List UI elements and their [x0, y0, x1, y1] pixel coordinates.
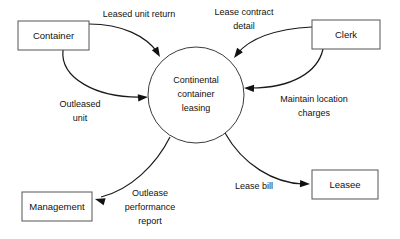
process-label-line-3: leasing: [182, 103, 211, 113]
flow-lease-bill-arrowhead: [300, 180, 310, 188]
container-entity-label: Container: [33, 30, 74, 41]
flow-lease-contract-detail-label-line-2: detail: [233, 21, 255, 31]
flow-outlease-performance-report-label: Outlease performance report: [125, 188, 176, 226]
flow-outlease-performance-report-label-line-2: performance: [125, 202, 176, 212]
clerk-entity-label: Clerk: [335, 29, 357, 40]
flow-lease-bill-path: [225, 133, 303, 184]
flow-lease-bill[interactable]: [225, 133, 310, 188]
flow-outlease-performance-report-label-line-1: Outlease: [132, 188, 168, 198]
flow-outleased-unit-label-line-1: Outleased: [59, 99, 100, 109]
flow-maintain-location-charges-path: [251, 49, 323, 88]
management-entity-label: Management: [29, 201, 85, 212]
flow-maintain-location-charges-arrowhead: [244, 84, 254, 92]
process-label-line-1: Continental: [173, 75, 219, 85]
flow-outleased-unit-label-line-2: unit: [73, 113, 88, 123]
flow-leased-unit-return-label: Leased unit return: [103, 9, 176, 19]
clerk-entity[interactable]: Clerk: [312, 20, 380, 49]
flow-outleased-unit-label: Outleased unit: [59, 99, 100, 123]
flow-outlease-performance-report-label-line-3: report: [138, 216, 162, 226]
flow-maintain-location-charges-label-line-1: Maintain location: [280, 94, 348, 104]
flow-maintain-location-charges[interactable]: [244, 49, 323, 92]
flow-leased-unit-return-label-line-1: Leased unit return: [103, 9, 176, 19]
flow-lease-bill-label-line-1: Lease bill: [235, 181, 273, 191]
flow-outleased-unit-path: [63, 50, 142, 97]
management-entity[interactable]: Management: [22, 192, 92, 221]
flow-lease-contract-detail-path: [237, 27, 312, 54]
continental-container-leasing-process[interactable]: Continental container leasing: [148, 47, 244, 143]
container-entity[interactable]: Container: [18, 21, 89, 50]
flow-outlease-performance-report-arrowhead: [94, 196, 106, 206]
flow-lease-contract-detail-label: Lease contract detail: [214, 7, 274, 31]
leasee-entity[interactable]: Leasee: [312, 170, 378, 199]
flow-lease-contract-detail[interactable]: [231, 27, 312, 60]
dfd-diagram-canvas: Continental container leasing Container …: [0, 0, 400, 239]
flow-lease-bill-label: Lease bill: [235, 181, 273, 191]
flow-maintain-location-charges-label-line-2: charges: [298, 108, 331, 118]
flow-lease-contract-detail-label-line-1: Lease contract: [214, 7, 274, 17]
leasee-entity-label: Leasee: [329, 179, 360, 190]
flow-maintain-location-charges-label: Maintain location charges: [280, 94, 348, 118]
flow-outleased-unit-arrowhead: [138, 93, 149, 101]
dfd-svg-root: Continental container leasing Container …: [0, 0, 400, 239]
flow-leased-unit-return-path: [89, 24, 158, 53]
flow-leased-unit-return[interactable]: [89, 24, 163, 59]
process-label-line-2: container: [177, 89, 214, 99]
flow-outleased-unit[interactable]: [63, 50, 148, 101]
